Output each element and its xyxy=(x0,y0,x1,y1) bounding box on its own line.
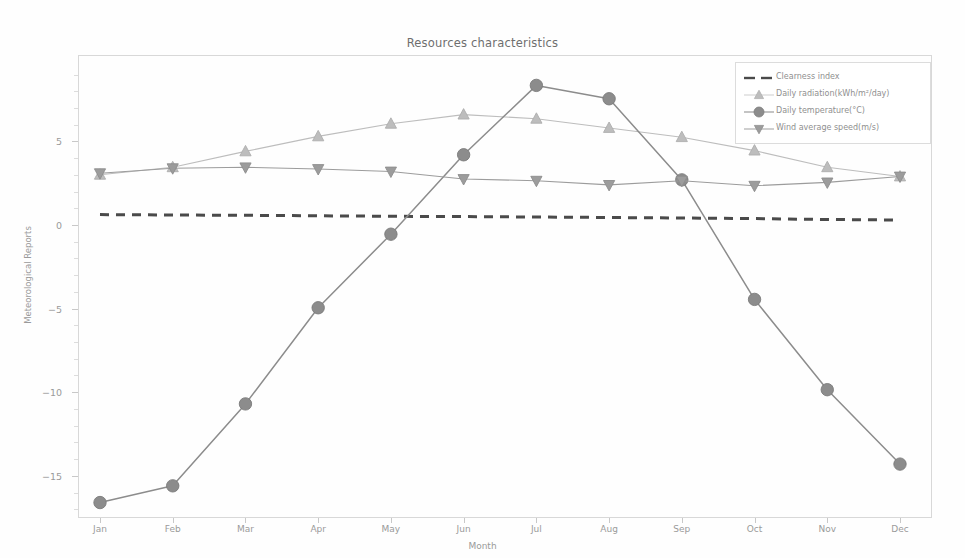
legend-label-wind-average-speed: Wind average speed(m/s) xyxy=(776,123,879,133)
series-wind-average-speed xyxy=(94,163,905,192)
series-clearness-index xyxy=(100,215,900,220)
data-point-marker xyxy=(167,480,179,492)
data-point-marker xyxy=(457,149,469,161)
chart-legend: Clearness index Daily radiation(kWh/m²/d… xyxy=(735,62,931,144)
data-point-marker xyxy=(821,383,833,395)
circle-marker-icon xyxy=(742,104,776,118)
triangle-up-marker-icon xyxy=(742,87,776,101)
data-point-marker xyxy=(312,302,324,314)
data-point-marker xyxy=(748,293,760,305)
legend-item-daily-temperature[interactable]: Daily temperature(°C) xyxy=(742,103,924,119)
data-point-marker xyxy=(822,178,833,188)
data-point-marker xyxy=(385,228,397,240)
data-point-marker xyxy=(239,398,251,410)
legend-item-clearness-index[interactable]: Clearness index xyxy=(742,69,924,85)
data-point-marker xyxy=(458,175,469,185)
data-point-marker xyxy=(530,79,542,91)
data-point-marker xyxy=(894,458,906,470)
data-point-marker xyxy=(240,163,251,173)
data-point-marker xyxy=(94,496,106,508)
legend-label-daily-temperature: Daily temperature(°C) xyxy=(776,106,865,116)
legend-label-clearness-index: Clearness index xyxy=(776,72,840,82)
data-point-marker xyxy=(313,165,324,175)
data-point-marker xyxy=(603,93,615,105)
triangle-down-marker-icon xyxy=(742,121,776,135)
legend-item-daily-radiation[interactable]: Daily radiation(kWh/m²/day) xyxy=(742,86,924,102)
legend-item-wind-average-speed[interactable]: Wind average speed(m/s) xyxy=(742,120,924,136)
legend-label-daily-radiation: Daily radiation(kWh/m²/day) xyxy=(776,89,889,99)
data-point-marker xyxy=(531,176,542,186)
data-point-marker xyxy=(749,181,760,191)
dashed-line-swatch-icon xyxy=(742,70,776,84)
data-point-marker xyxy=(531,113,542,123)
chart-figure: Resources characteristics Meteorological… xyxy=(0,0,965,558)
data-point-marker xyxy=(458,109,469,119)
data-point-marker xyxy=(604,181,615,191)
